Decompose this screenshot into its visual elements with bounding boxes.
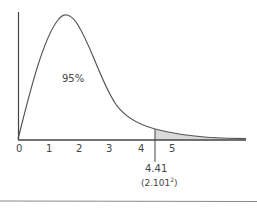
critical-value-label: 4.41 (145, 163, 167, 174)
x-tick-label: 4 (138, 143, 144, 154)
x-tick-label: 1 (46, 143, 52, 154)
area-percent-label: 95% (62, 73, 84, 84)
density-curve (18, 15, 246, 139)
critical-value-note: (2.1012) (141, 176, 178, 188)
x-tick-label: 5 (169, 143, 175, 154)
x-tick-label: 3 (106, 143, 112, 154)
x-tick-label: 2 (76, 143, 82, 154)
f-distribution-chart: 0 1 2 3 4 5 95% 4.41 (2.1012) (0, 0, 257, 209)
x-tick-label: 0 (16, 143, 22, 154)
bottom-rule (0, 201, 257, 202)
